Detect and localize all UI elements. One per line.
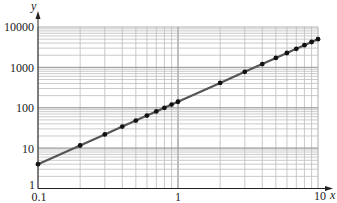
x-tick-label-0.1: 0.1 — [32, 190, 47, 203]
y-tick-label-10: 10 — [22, 142, 34, 156]
data-point-marker — [78, 143, 83, 148]
data-point-marker — [273, 56, 278, 61]
data-point-marker — [162, 105, 167, 110]
data-point-marker — [154, 109, 159, 114]
data-point-marker — [169, 102, 174, 107]
data-point-marker — [145, 113, 150, 118]
data-point-marker — [309, 40, 314, 45]
data-point-marker — [260, 62, 265, 67]
y-tick-label-10000: 10000 — [4, 20, 34, 34]
data-point-marker — [176, 99, 181, 104]
data-point-marker — [316, 37, 321, 42]
x-tick-label-10: 10 — [314, 189, 326, 203]
data-point-marker — [218, 80, 223, 85]
data-point-marker — [133, 118, 138, 123]
x-axis-label: x — [329, 188, 336, 202]
data-point-marker — [242, 69, 247, 74]
y-tick-label-100: 100 — [16, 101, 34, 115]
data-point-marker — [102, 132, 107, 137]
x-tick-label-1: 1 — [175, 190, 181, 203]
data-point-marker — [302, 43, 307, 48]
y-axis-label: y — [30, 0, 37, 13]
data-point-marker — [120, 124, 125, 129]
grid-lines — [38, 27, 318, 189]
y-tick-label-1000: 1000 — [10, 61, 34, 75]
log-log-chart: 10000 1000 100 10 1 0.1 1 10 x y — [0, 0, 337, 203]
data-point-marker — [294, 46, 299, 51]
data-point-marker — [285, 51, 290, 56]
